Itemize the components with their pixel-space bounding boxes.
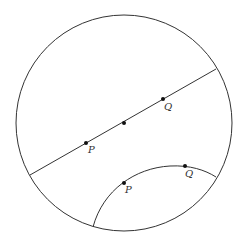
label-q-diameter: Q	[164, 101, 172, 112]
label-p-arc: P	[124, 184, 132, 195]
label-p-diameter: P	[87, 144, 95, 155]
poincare-disk-diagram: P Q P Q	[0, 0, 243, 245]
label-q-arc: Q	[185, 168, 193, 179]
arc-geodesic	[93, 166, 216, 227]
point-center	[122, 121, 126, 125]
